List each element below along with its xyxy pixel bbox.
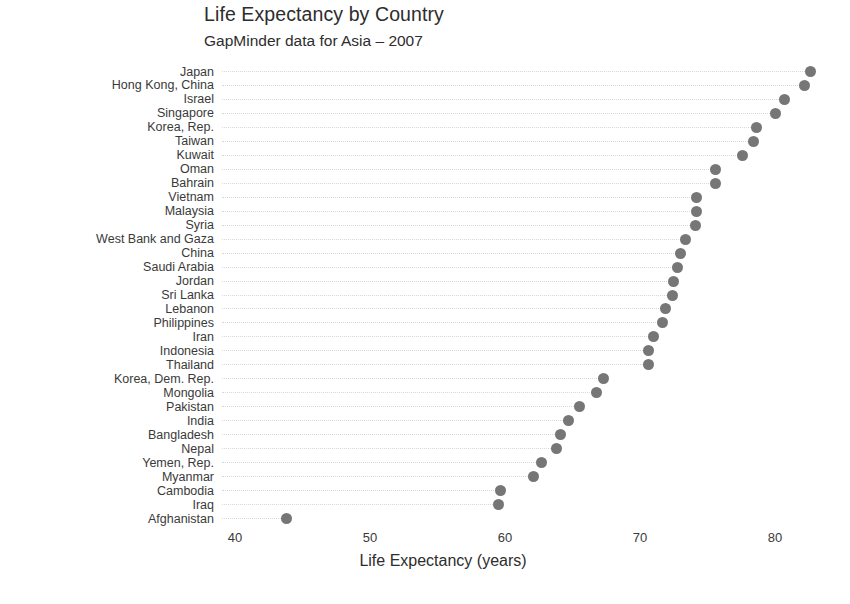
data-row: Syria	[0, 218, 850, 232]
data-point-marker[interactable]	[668, 276, 679, 287]
data-point-marker[interactable]	[493, 499, 504, 510]
data-point-marker[interactable]	[657, 317, 668, 328]
category-label: Nepal	[181, 442, 214, 456]
leader-line	[222, 476, 528, 478]
category-label: Taiwan	[175, 134, 214, 148]
category-label: Kuwait	[176, 148, 214, 162]
data-point-marker[interactable]	[748, 136, 759, 147]
data-point-marker[interactable]	[672, 262, 683, 273]
category-label: Lebanon	[165, 302, 214, 316]
data-point-marker[interactable]	[751, 122, 762, 133]
data-point-marker[interactable]	[691, 192, 702, 203]
data-point-marker[interactable]	[680, 234, 691, 245]
category-label: Myanmar	[162, 470, 214, 484]
data-point-marker[interactable]	[779, 94, 790, 105]
data-point-marker[interactable]	[710, 178, 721, 189]
leader-line	[222, 308, 661, 310]
x-tick-label: 50	[363, 530, 377, 546]
leader-line	[222, 267, 673, 269]
category-label: West Bank and Gaza	[96, 232, 214, 246]
category-label: Jordan	[176, 274, 214, 288]
data-row: Korea, Dem. Rep.	[0, 372, 850, 386]
category-label: Sri Lanka	[161, 288, 214, 302]
category-label: Saudi Arabia	[143, 260, 214, 274]
leader-line	[222, 462, 536, 464]
data-point-marker[interactable]	[660, 303, 671, 314]
data-point-marker[interactable]	[643, 345, 654, 356]
data-row: Hong Kong, China	[0, 78, 850, 92]
data-row: Pakistan	[0, 400, 850, 414]
data-point-marker[interactable]	[737, 150, 748, 161]
data-point-marker[interactable]	[591, 387, 602, 398]
data-row: Indonesia	[0, 344, 850, 358]
x-tick-label: 80	[768, 530, 782, 546]
category-label: Mongolia	[163, 386, 214, 400]
data-point-marker[interactable]	[770, 108, 781, 119]
data-row: Bangladesh	[0, 428, 850, 442]
plot-area: JapanHong Kong, ChinaIsraelSingaporeKore…	[0, 0, 850, 604]
data-point-marker[interactable]	[675, 248, 686, 259]
leader-line	[222, 434, 555, 436]
data-point-marker[interactable]	[805, 66, 816, 77]
data-point-marker[interactable]	[690, 220, 701, 231]
category-label: Bangladesh	[148, 428, 214, 442]
data-point-marker[interactable]	[648, 331, 659, 342]
leader-line	[222, 364, 643, 366]
leader-line	[222, 420, 563, 422]
data-row: Kuwait	[0, 148, 850, 162]
data-row: Singapore	[0, 106, 850, 120]
data-row: Israel	[0, 92, 850, 106]
data-point-marker[interactable]	[495, 485, 506, 496]
data-row: Malaysia	[0, 204, 850, 218]
data-point-marker[interactable]	[691, 206, 702, 217]
leader-line	[222, 211, 692, 213]
data-row: Lebanon	[0, 302, 850, 316]
category-label: Malaysia	[165, 204, 214, 218]
x-axis-title-label: Life Expectancy (years)	[359, 551, 526, 571]
category-label: Cambodia	[157, 484, 214, 498]
data-point-marker[interactable]	[563, 415, 574, 426]
data-row: Yemen, Rep.	[0, 456, 850, 470]
life-expectancy-dot-plot: Life Expectancy by Country GapMinder dat…	[0, 0, 850, 604]
category-label: Iran	[192, 330, 214, 344]
data-row: Philippines	[0, 316, 850, 330]
leader-line	[222, 197, 692, 199]
leader-line	[222, 490, 496, 492]
leader-line	[222, 239, 681, 241]
data-point-marker[interactable]	[574, 401, 585, 412]
category-label: Israel	[183, 92, 214, 106]
leader-line	[222, 253, 676, 255]
leader-line	[222, 378, 599, 380]
leader-line	[222, 113, 770, 115]
leader-line	[222, 127, 751, 129]
data-point-marker[interactable]	[799, 80, 810, 91]
data-row: China	[0, 246, 850, 260]
category-label: Pakistan	[166, 400, 214, 414]
category-label: Iraq	[192, 498, 214, 512]
data-point-marker[interactable]	[643, 359, 654, 370]
leader-line	[222, 155, 738, 157]
category-label: China	[181, 246, 214, 260]
leader-line	[222, 85, 800, 87]
data-point-marker[interactable]	[536, 457, 547, 468]
data-row: Sri Lanka	[0, 288, 850, 302]
data-point-marker[interactable]	[551, 443, 562, 454]
category-label: Japan	[180, 65, 214, 79]
data-point-marker[interactable]	[555, 429, 566, 440]
category-label: Philippines	[154, 316, 214, 330]
x-axis-title: Life Expectancy (years)	[0, 551, 850, 571]
data-row: Oman	[0, 162, 850, 176]
data-row: Myanmar	[0, 470, 850, 484]
category-label: Thailand	[166, 358, 214, 372]
data-point-marker[interactable]	[598, 373, 609, 384]
data-point-marker[interactable]	[528, 471, 539, 482]
data-point-marker[interactable]	[710, 164, 721, 175]
data-point-marker[interactable]	[667, 290, 678, 301]
leader-line	[222, 71, 805, 73]
x-tick-label: 70	[633, 530, 647, 546]
leader-line	[222, 392, 592, 394]
data-row: Cambodia	[0, 484, 850, 498]
leader-line	[222, 169, 711, 171]
category-label: Bahrain	[171, 176, 214, 190]
data-point-marker[interactable]	[281, 513, 292, 524]
